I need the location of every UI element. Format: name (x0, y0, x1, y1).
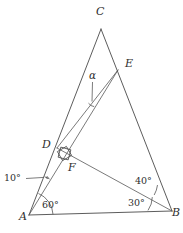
angle-label-40: 40° (135, 176, 152, 186)
vertex-label-A: A (19, 211, 27, 222)
angle-label-alpha: α (89, 70, 96, 81)
geometry-figure: C E D F A B 60° 30° 40° 10° α (0, 0, 183, 233)
angle-arc-40-degrees (154, 185, 157, 195)
angle-label-30: 30° (128, 198, 145, 208)
segment-A-C (29, 29, 101, 215)
geometry-canvas (0, 0, 183, 233)
leader-alpha (92, 82, 93, 102)
vertex-label-C: C (96, 6, 104, 17)
angle-label-10: 10° (4, 173, 21, 183)
segment-B-D (57, 148, 172, 211)
vertex-label-B: B (172, 207, 180, 218)
vertex-label-E: E (125, 58, 133, 69)
vertex-label-D: D (42, 139, 51, 150)
segment-E-D (57, 70, 118, 148)
segment-A-B (29, 211, 172, 215)
angle-label-60: 60° (42, 200, 59, 210)
leader-10-degrees (26, 177, 44, 178)
vertex-label-F: F (68, 162, 76, 173)
